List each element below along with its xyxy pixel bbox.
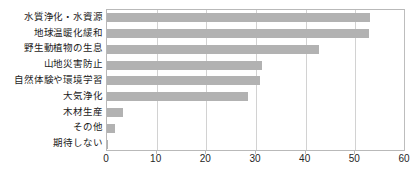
- category-label: 水質浄化・水資源: [3, 12, 103, 22]
- plot-area: [106, 9, 405, 151]
- category-label: 地球温暖化緩和: [3, 28, 103, 38]
- bar: [107, 92, 248, 101]
- category-label: 木材生産: [3, 107, 103, 117]
- x-tick-mark: [305, 151, 306, 154]
- bar: [107, 45, 319, 54]
- x-tick-mark: [255, 151, 256, 154]
- x-tick-label: 20: [200, 153, 211, 165]
- bar: [107, 140, 108, 149]
- x-tick-mark: [354, 151, 355, 154]
- category-label: その他: [3, 122, 103, 132]
- bar: [107, 76, 260, 85]
- category-label: 野生動植物の生息: [3, 43, 103, 53]
- category-axis-labels: 水質浄化・水資源地球温暖化緩和野生動植物の生息山地災害防止自然体験や環境学習大気…: [0, 9, 103, 151]
- bar: [107, 13, 370, 22]
- category-label: 大気浄化: [3, 91, 103, 101]
- bar: [107, 108, 123, 117]
- x-tick-label: 50: [349, 153, 360, 165]
- x-tick-label: 10: [150, 153, 161, 165]
- x-tick-label: 30: [249, 153, 260, 165]
- x-tick-label: 40: [299, 153, 310, 165]
- bar: [107, 29, 369, 38]
- category-label: 自然体験や環境学習: [3, 75, 103, 85]
- x-tick-mark: [156, 151, 157, 154]
- category-label: 期待しない: [3, 138, 103, 148]
- bar: [107, 124, 115, 133]
- x-axis-tick-labels: 0102030405060: [106, 153, 405, 169]
- bar: [107, 61, 262, 70]
- x-tick-label: 60: [398, 153, 409, 165]
- x-tick-mark: [205, 151, 206, 154]
- category-label: 山地災害防止: [3, 59, 103, 69]
- horizontal-bar-chart: 水質浄化・水資源地球温暖化緩和野生動植物の生息山地災害防止自然体験や環境学習大気…: [0, 0, 414, 178]
- x-tick-label: 0: [103, 153, 109, 165]
